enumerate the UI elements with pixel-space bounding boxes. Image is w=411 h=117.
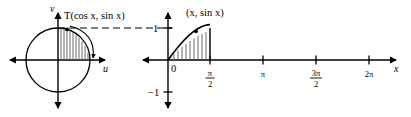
x-tick-label-3pi-over-2-numerator: 3π (312, 68, 321, 78)
x-tick-label-pi: π (261, 69, 266, 79)
sine-graph-panel: (x, sin x) 1 −1 0 π 2 π 3π 2 2π (143, 7, 399, 108)
point-T-label: T(cos x, sin x) (64, 10, 125, 22)
x-tick-label-pi-over-2-denominator: 2 (208, 79, 212, 89)
point-on-sine-label: (x, sin x) (186, 7, 224, 19)
y-tick-label-positive-one: 1 (153, 23, 158, 34)
x-tick-label-pi-over-2: π 2 (206, 68, 215, 89)
v-axis-label: v (50, 3, 55, 14)
u-axis-label: u (103, 63, 108, 74)
point-T-marker (65, 28, 69, 32)
x-axis-label: x (393, 63, 399, 74)
unit-circle-panel: v u T(cos x, sin x) (10, 3, 125, 108)
x-tick-label-2pi: 2π (365, 69, 374, 79)
x-tick-label-pi-over-2-numerator: π (208, 68, 213, 78)
origin-label: 0 (171, 63, 176, 74)
figure-svg: v u T(cos x, sin x) (0, 0, 411, 117)
x-tick-label-3pi-over-2-denominator: 2 (314, 79, 318, 89)
point-on-sine-marker (194, 29, 198, 33)
figure-container: v u T(cos x, sin x) (0, 0, 411, 117)
y-tick-label-negative-one: −1 (148, 87, 159, 98)
x-tick-label-3pi-over-2: 3π 2 (310, 68, 322, 89)
